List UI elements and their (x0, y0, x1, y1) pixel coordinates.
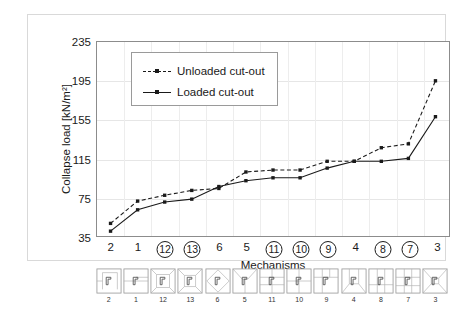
chart-frame: Collapse load [kN/m²] 3575115155195235 2… (27, 14, 446, 261)
x-axis-tick-label: 8 (374, 241, 391, 258)
mechanism-number-label: 1 (122, 296, 150, 304)
x-axis-tick-label: 1 (135, 241, 141, 253)
mechanism-cell-10: 10 (285, 268, 313, 304)
mechanism-number-label: 9 (312, 296, 340, 304)
y-axis-tick-label: 235 (72, 36, 91, 48)
data-point-marker (244, 170, 247, 173)
mechanism-number-label: 6 (204, 296, 232, 304)
data-point-marker (434, 79, 437, 82)
mechanism-11-icon (258, 268, 286, 294)
mechanism-number-label: 2 (95, 296, 123, 304)
data-point-marker (271, 168, 274, 171)
data-point-marker (244, 179, 247, 182)
mechanism-13-icon (176, 268, 204, 294)
legend: Unloaded cut-out Loaded cut-out (131, 52, 278, 106)
mechanism-2-icon (95, 268, 123, 294)
mechanism-8-icon (367, 268, 395, 294)
mechanism-cell-8: 8 (367, 268, 395, 304)
data-point-marker (163, 200, 166, 203)
x-axis-tick-label: 12 (157, 241, 174, 258)
y-axis-tick-label: 35 (78, 232, 91, 244)
mechanism-cell-4: 4 (340, 268, 368, 304)
mechanism-cell-13: 13 (176, 268, 204, 304)
mechanism-4-icon (340, 268, 368, 294)
data-point-marker (217, 185, 220, 188)
x-axis-tick-label: 7 (402, 241, 419, 258)
x-axis-tick-label: 9 (320, 241, 337, 258)
mechanism-number-label: 10 (285, 296, 313, 304)
mechanism-cell-6: 6 (204, 268, 232, 304)
data-point-marker (136, 199, 139, 202)
x-axis-tick-label: 5 (244, 241, 250, 253)
y-axis-tick-label: 155 (72, 114, 91, 126)
data-point-marker (163, 194, 166, 197)
mechanism-5-icon (231, 268, 259, 294)
mechanism-12-icon (149, 268, 177, 294)
mechanism-number-label: 5 (231, 296, 259, 304)
y-axis-tick-label: 195 (72, 75, 91, 87)
mechanism-1-icon (122, 268, 150, 294)
plot-area: 3575115155195235 21121365111094873 Mecha… (96, 41, 450, 237)
x-axis-tick-label: 10 (293, 241, 310, 258)
mechanism-cell-2: 2 (95, 268, 123, 304)
data-point-marker (434, 115, 437, 118)
y-axis-tick-label: 115 (73, 154, 91, 166)
mechanism-number-label: 3 (421, 296, 449, 304)
mechanism-number-label: 13 (176, 296, 204, 304)
data-point-marker (109, 229, 112, 232)
data-point-marker (325, 166, 328, 169)
mechanism-10-icon (285, 268, 313, 294)
x-axis-tick-label: 11 (266, 241, 283, 258)
mechanism-strip: 21121365111094873 (27, 268, 446, 324)
data-point-marker (271, 176, 274, 179)
x-axis-tick-label: 4 (352, 241, 358, 253)
mechanism-number-label: 11 (258, 296, 286, 304)
data-point-marker (190, 189, 193, 192)
data-point-marker (407, 142, 410, 145)
mechanism-number-label: 4 (340, 296, 368, 304)
mechanism-6-icon (204, 268, 232, 294)
x-axis-tick-label: 6 (216, 241, 222, 253)
data-point-marker (136, 208, 139, 211)
mechanism-9-icon (312, 268, 340, 294)
data-point-marker (353, 160, 356, 163)
mechanism-cell-11: 11 (258, 268, 286, 304)
data-point-marker (109, 222, 112, 225)
mechanism-cell-7: 7 (394, 268, 422, 304)
mechanism-3-icon (421, 268, 449, 294)
x-axis-tick-label: 3 (434, 241, 440, 253)
legend-key-solid-icon (143, 87, 171, 97)
data-point-marker (380, 160, 383, 163)
series-line-loaded (111, 117, 436, 231)
mechanism-number-label: 8 (367, 296, 395, 304)
data-point-marker (190, 197, 193, 200)
mechanism-cell-9: 9 (312, 268, 340, 304)
y-axis-tick-label: 75 (78, 193, 91, 205)
mechanism-number-label: 7 (394, 296, 422, 304)
mechanism-7-icon (394, 268, 422, 294)
mechanism-cell-1: 1 (122, 268, 150, 304)
mechanism-cell-12: 12 (149, 268, 177, 304)
data-point-marker (298, 168, 301, 171)
legend-item-loaded: Loaded cut-out (132, 81, 277, 102)
chart-page: Collapse load [kN/m²] 3575115155195235 2… (0, 0, 459, 329)
data-point-marker (298, 176, 301, 179)
data-point-marker (380, 146, 383, 149)
mechanism-cell-5: 5 (231, 268, 259, 304)
mechanism-cell-3: 3 (421, 268, 449, 304)
data-point-marker (325, 160, 328, 163)
x-axis-tick-label: 2 (107, 241, 113, 253)
legend-label-unloaded: Unloaded cut-out (177, 65, 265, 77)
x-axis-tick-label: 13 (184, 241, 201, 258)
data-point-marker (407, 157, 410, 160)
legend-key-dashed-icon (143, 66, 171, 76)
mechanism-number-label: 12 (149, 296, 177, 304)
legend-item-unloaded: Unloaded cut-out (132, 60, 277, 81)
legend-label-loaded: Loaded cut-out (177, 86, 254, 98)
y-axis-title: Collapse load [kN/m²] (59, 41, 73, 237)
